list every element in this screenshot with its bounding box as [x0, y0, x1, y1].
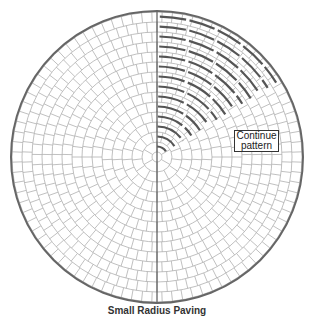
label-line-2: pattern: [235, 141, 278, 151]
figure-caption: Small Radius Paving: [0, 305, 314, 316]
continue-pattern-label: Continue pattern: [234, 130, 279, 152]
